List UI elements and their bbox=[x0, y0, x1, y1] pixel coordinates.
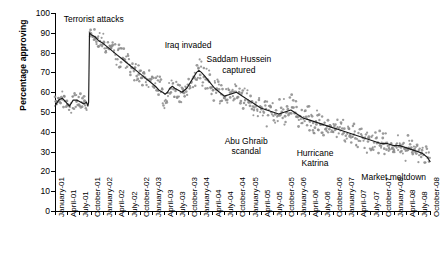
data-point bbox=[166, 101, 169, 104]
data-point bbox=[215, 92, 217, 94]
data-point bbox=[366, 152, 368, 154]
data-point bbox=[322, 134, 325, 137]
data-point bbox=[206, 87, 209, 90]
data-point bbox=[145, 81, 147, 83]
data-point bbox=[162, 104, 165, 107]
data-point bbox=[233, 97, 236, 100]
x-tick-mark bbox=[297, 211, 298, 215]
data-point bbox=[426, 148, 429, 151]
data-point bbox=[275, 109, 278, 112]
data-point bbox=[267, 114, 270, 117]
data-point bbox=[278, 98, 281, 101]
data-point bbox=[86, 109, 88, 111]
data-point bbox=[136, 77, 139, 80]
data-point bbox=[420, 156, 423, 159]
annotation-label: Saddam Hussein captured bbox=[206, 54, 271, 75]
data-point bbox=[264, 104, 266, 106]
data-point bbox=[135, 63, 137, 65]
annotation-label: Hurricane Katrina bbox=[297, 147, 334, 168]
data-point bbox=[105, 50, 107, 52]
data-point bbox=[385, 148, 388, 151]
data-point bbox=[167, 95, 169, 97]
data-point bbox=[289, 96, 292, 99]
data-point bbox=[249, 95, 252, 98]
data-point bbox=[253, 109, 256, 112]
x-tick-mark bbox=[188, 211, 189, 215]
data-point bbox=[196, 64, 199, 67]
data-point bbox=[273, 119, 276, 122]
data-point bbox=[203, 67, 206, 70]
data-point bbox=[197, 66, 200, 69]
data-point bbox=[145, 84, 147, 86]
x-tick-mark bbox=[418, 211, 419, 215]
data-point bbox=[428, 151, 430, 153]
data-point bbox=[397, 134, 399, 136]
data-point bbox=[258, 97, 260, 99]
data-point bbox=[400, 150, 403, 153]
data-point bbox=[226, 102, 228, 104]
data-point bbox=[192, 86, 194, 88]
data-point bbox=[144, 73, 146, 75]
data-point bbox=[62, 106, 65, 109]
data-point bbox=[221, 99, 224, 102]
data-point bbox=[340, 123, 342, 125]
data-point bbox=[83, 95, 86, 98]
data-point bbox=[351, 136, 353, 138]
data-point bbox=[304, 109, 307, 112]
data-point bbox=[214, 82, 216, 84]
data-point bbox=[274, 122, 276, 124]
data-point bbox=[156, 75, 158, 77]
data-point bbox=[404, 160, 406, 162]
data-point bbox=[178, 95, 180, 97]
data-point bbox=[93, 28, 96, 31]
data-point bbox=[214, 80, 216, 82]
data-point bbox=[382, 132, 385, 135]
data-point bbox=[282, 108, 284, 110]
data-point bbox=[380, 145, 382, 147]
data-point bbox=[75, 94, 77, 96]
data-point bbox=[383, 153, 385, 155]
data-point bbox=[235, 85, 238, 88]
data-point bbox=[160, 78, 163, 81]
data-point bbox=[212, 89, 214, 91]
data-point bbox=[411, 139, 414, 142]
x-tick-label: October-08 bbox=[433, 177, 441, 217]
data-point bbox=[292, 106, 295, 109]
data-point bbox=[389, 148, 391, 150]
data-point bbox=[128, 58, 130, 60]
data-point bbox=[84, 104, 86, 106]
data-point bbox=[425, 145, 428, 148]
data-point bbox=[114, 43, 116, 45]
plot-area: 0102030405060708090100 January-01April-0… bbox=[55, 13, 430, 211]
data-point bbox=[354, 130, 356, 132]
data-point bbox=[73, 107, 76, 110]
data-point bbox=[324, 122, 326, 124]
data-point bbox=[232, 89, 234, 91]
data-point bbox=[119, 65, 121, 67]
data-point bbox=[127, 55, 130, 58]
data-point bbox=[290, 112, 293, 115]
data-point bbox=[187, 78, 190, 81]
data-point bbox=[286, 105, 289, 108]
y-tick-label: 20 bbox=[41, 167, 50, 176]
data-point bbox=[346, 137, 348, 139]
data-point bbox=[295, 106, 298, 109]
data-point bbox=[210, 93, 212, 95]
x-tick-mark bbox=[128, 211, 129, 215]
data-point bbox=[153, 77, 155, 79]
data-point bbox=[343, 127, 346, 130]
data-point bbox=[249, 104, 252, 107]
data-point bbox=[366, 132, 368, 134]
data-point bbox=[357, 132, 359, 134]
data-point bbox=[368, 135, 371, 138]
y-tick-label: 70 bbox=[41, 68, 50, 77]
x-tick-mark bbox=[273, 211, 274, 215]
y-tick-label: 80 bbox=[41, 48, 50, 57]
x-tick-mark bbox=[249, 211, 250, 215]
data-point bbox=[170, 91, 172, 93]
data-point bbox=[314, 126, 317, 129]
data-point bbox=[54, 96, 57, 99]
x-tick-mark bbox=[285, 211, 286, 215]
data-point bbox=[277, 120, 279, 122]
data-point bbox=[70, 112, 72, 114]
